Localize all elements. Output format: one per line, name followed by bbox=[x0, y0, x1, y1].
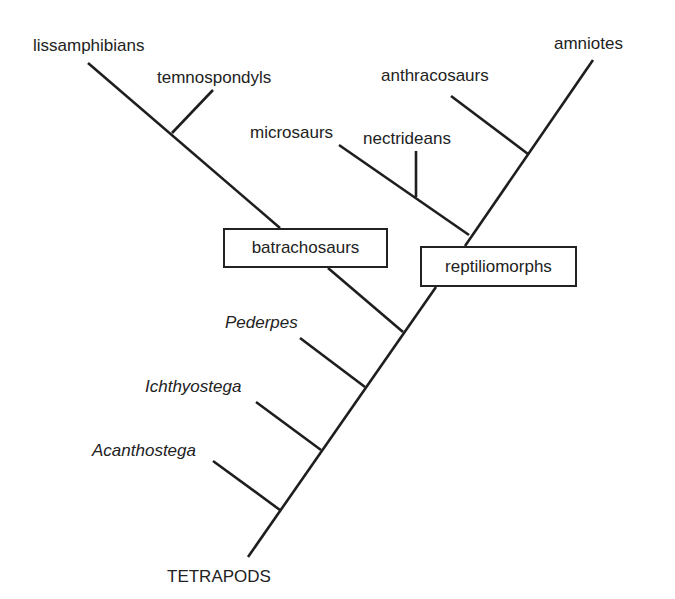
taxon-label-nectrideans: nectrideans bbox=[363, 129, 451, 149]
taxon-label-anthracosaurs: anthracosaurs bbox=[381, 66, 489, 86]
taxon-label-lissamphibians: lissamphibians bbox=[33, 36, 145, 56]
clade-box-batrachosaurs: batrachosaurs bbox=[223, 228, 388, 268]
branch-ichthyostega bbox=[256, 402, 321, 450]
branch-acanthostega bbox=[213, 461, 280, 510]
taxon-label-microsaurs: microsaurs bbox=[250, 123, 333, 143]
taxon-label-temnospondyls: temnospondyls bbox=[157, 68, 271, 88]
taxon-label-acanthostega: Acanthostega bbox=[92, 441, 196, 461]
branch-microsaurs bbox=[339, 145, 469, 235]
clade-label-reptiliomorphs: reptiliomorphs bbox=[445, 257, 552, 277]
taxon-label-amniotes: amniotes bbox=[554, 34, 623, 54]
clade-box-reptiliomorphs: reptiliomorphs bbox=[420, 246, 577, 287]
trunk-upper bbox=[465, 60, 593, 246]
cladogram-lines bbox=[0, 0, 675, 599]
branch-anthracosaurs bbox=[451, 96, 528, 154]
branch-pederpes bbox=[300, 338, 365, 387]
taxon-label-ichthyostega: Ichthyostega bbox=[145, 377, 241, 397]
root-label-tetrapods: TETRAPODS bbox=[167, 567, 271, 587]
taxon-label-pederpes: Pederpes bbox=[225, 313, 298, 333]
clade-label-batrachosaurs: batrachosaurs bbox=[252, 238, 360, 258]
branch-temnospondyls bbox=[172, 90, 213, 133]
branch-batrachosaurs-stem bbox=[328, 268, 403, 332]
